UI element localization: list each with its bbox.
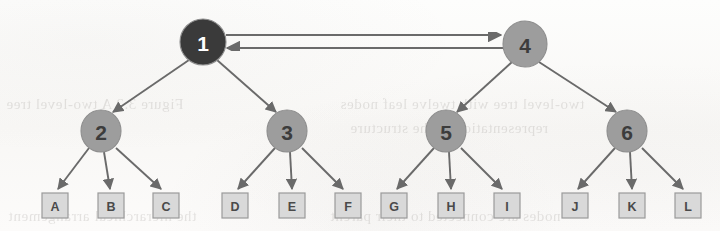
- edge-n5-to-lH: [449, 152, 451, 189]
- tree-node-3[interactable]: 3: [267, 110, 307, 152]
- node-label-1: 1: [197, 32, 209, 55]
- tree-node-1[interactable]: 1: [180, 19, 226, 65]
- node-label-6: 6: [621, 121, 633, 144]
- leaf-label-L: L: [684, 200, 692, 214]
- node-label-3: 3: [281, 121, 293, 144]
- leaf-label-C: C: [161, 200, 170, 214]
- leaf-node-E[interactable]: E: [279, 193, 305, 218]
- leaf-node-C[interactable]: C: [153, 193, 179, 218]
- edge-n3-to-lD: [238, 148, 275, 189]
- edge-n2-to-lB: [104, 152, 110, 189]
- leaf-node-L[interactable]: L: [675, 193, 701, 218]
- node-label-2: 2: [95, 121, 107, 144]
- leaf-label-D: D: [230, 200, 239, 214]
- edge-n6-to-lK: [630, 152, 632, 189]
- nodes-layer: 142356: [81, 19, 647, 152]
- leaf-label-E: E: [288, 200, 296, 214]
- leaf-node-K[interactable]: K: [619, 193, 645, 218]
- edge-n1-to-n2: [113, 60, 189, 112]
- leaf-label-I: I: [505, 200, 508, 214]
- edge-n4-to-n6: [539, 62, 616, 112]
- leaf-node-A[interactable]: A: [42, 193, 68, 218]
- leaf-node-B[interactable]: B: [98, 193, 124, 218]
- edge-n5-to-lG: [397, 148, 434, 189]
- edge-n3-to-lE: [290, 152, 292, 189]
- tree-node-5[interactable]: 5: [426, 110, 466, 152]
- edges-layer: [58, 60, 683, 189]
- edge-n2-to-lA: [58, 148, 89, 189]
- edge-n6-to-lJ: [578, 148, 615, 189]
- leaf-label-G: G: [389, 200, 399, 214]
- edge-n6-to-lL: [642, 148, 683, 189]
- leaf-node-J[interactable]: J: [562, 193, 588, 218]
- leaf-node-F[interactable]: F: [335, 193, 361, 218]
- cross-links-layer: [226, 35, 503, 48]
- leaf-label-H: H: [446, 200, 455, 214]
- leaf-node-D[interactable]: D: [222, 193, 248, 218]
- leaf-label-B: B: [106, 200, 115, 214]
- diagram-page: Figure 3.2 A two-level tree two-level tr…: [0, 0, 720, 231]
- tree-node-2[interactable]: 2: [81, 110, 121, 152]
- leaves-layer: ABCDEFGHIJKL: [42, 193, 701, 218]
- tree-node-6[interactable]: 6: [607, 110, 647, 152]
- leaf-label-K: K: [627, 200, 636, 214]
- edge-n1-to-n3: [217, 60, 276, 112]
- edge-n2-to-lC: [116, 148, 161, 189]
- leaf-label-J: J: [572, 200, 579, 214]
- leaf-node-G[interactable]: G: [381, 193, 407, 218]
- tree-diagram-svg: ABCDEFGHIJKL 142356: [0, 0, 720, 231]
- leaf-node-I[interactable]: I: [494, 193, 520, 218]
- node-label-4: 4: [519, 34, 531, 57]
- node-label-5: 5: [440, 121, 452, 144]
- leaf-node-H[interactable]: H: [438, 193, 464, 218]
- edge-n3-to-lF: [302, 148, 343, 189]
- leaf-label-A: A: [50, 200, 59, 214]
- tree-node-4[interactable]: 4: [503, 21, 547, 67]
- edge-n5-to-lI: [461, 148, 502, 189]
- edge-n4-to-n5: [457, 62, 512, 112]
- leaf-label-F: F: [344, 200, 352, 214]
